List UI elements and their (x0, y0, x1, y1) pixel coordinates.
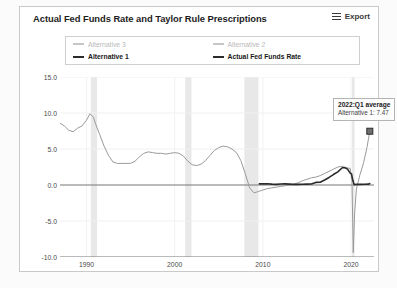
y-tick-label: 0.0 (48, 182, 57, 189)
page-root: Actual Fed Funds Rate and Taylor Rule Pr… (0, 0, 397, 288)
y-tick-label: 15.0 (44, 74, 57, 81)
y-tick-label: 5.0 (48, 146, 57, 153)
tooltip-title: 2022:Q1 average (338, 101, 390, 109)
legend-label: Alternative 3 (88, 41, 126, 48)
page-title: Actual Fed Funds Rate and Taylor Rule Pr… (33, 13, 267, 24)
export-button-label: Export (345, 12, 370, 21)
x-tick-label: 2020 (344, 261, 359, 268)
legend-swatch-icon (73, 56, 84, 58)
legend-item-alternative-2[interactable]: Alternative 2 (213, 41, 353, 48)
legend-item-alternative-1[interactable]: Alternative 1 (73, 53, 213, 60)
y-axis-labels: 15.010.05.00.0-5.0-10.0 (20, 77, 57, 257)
legend-label: Alternative 2 (228, 41, 266, 48)
plot-area (60, 77, 374, 257)
legend-label: Actual Fed Funds Rate (228, 53, 302, 60)
legend-item-actual-fed-funds-rate[interactable]: Actual Fed Funds Rate (213, 53, 353, 60)
legend-swatch-icon (213, 56, 224, 58)
x-tick-label: 1990 (79, 261, 94, 268)
x-tick-label: 2000 (167, 261, 182, 268)
y-tick-label: -10.0 (42, 254, 58, 261)
x-tick-label: 2010 (255, 261, 270, 268)
y-tick-label: -5.0 (45, 218, 57, 225)
chart-svg (60, 77, 374, 257)
y-tick-label: 10.0 (44, 110, 57, 117)
legend-item-alternative-3[interactable]: Alternative 3 (73, 41, 213, 48)
x-axis-labels: 1990200020102020 (60, 259, 374, 273)
chart-legend: Alternative 3 Alternative 2 Alternative … (65, 36, 360, 65)
export-button[interactable]: Export (332, 12, 370, 21)
card-header: Actual Fed Funds Rate and Taylor Rule Pr… (20, 7, 378, 33)
legend-swatch-icon (73, 43, 84, 45)
chart-card: Actual Fed Funds Rate and Taylor Rule Pr… (19, 6, 379, 272)
legend-label: Alternative 1 (88, 53, 129, 60)
tooltip-detail: Alternative 1: 7.47 (338, 109, 390, 117)
legend-swatch-icon (213, 43, 224, 45)
data-point-tooltip: 2022:Q1 average Alternative 1: 7.47 (333, 98, 395, 121)
hamburger-icon (332, 13, 341, 20)
